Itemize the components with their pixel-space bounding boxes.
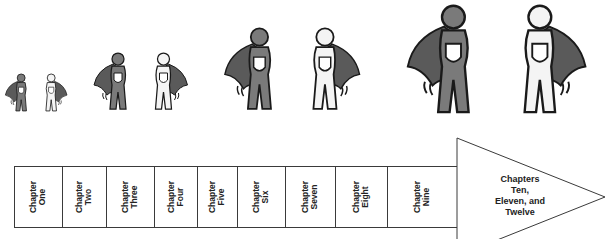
arrow-label: Chapters Ten, Eleven, and Twelve bbox=[470, 174, 570, 218]
